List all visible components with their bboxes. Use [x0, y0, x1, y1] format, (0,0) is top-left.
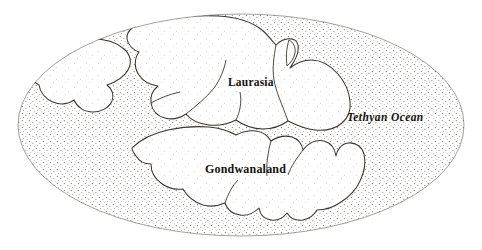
- map-illustration: [0, 0, 482, 250]
- pangaea-map-figure: Laurasia Gondwanaland Tethyan Ocean: [0, 0, 482, 250]
